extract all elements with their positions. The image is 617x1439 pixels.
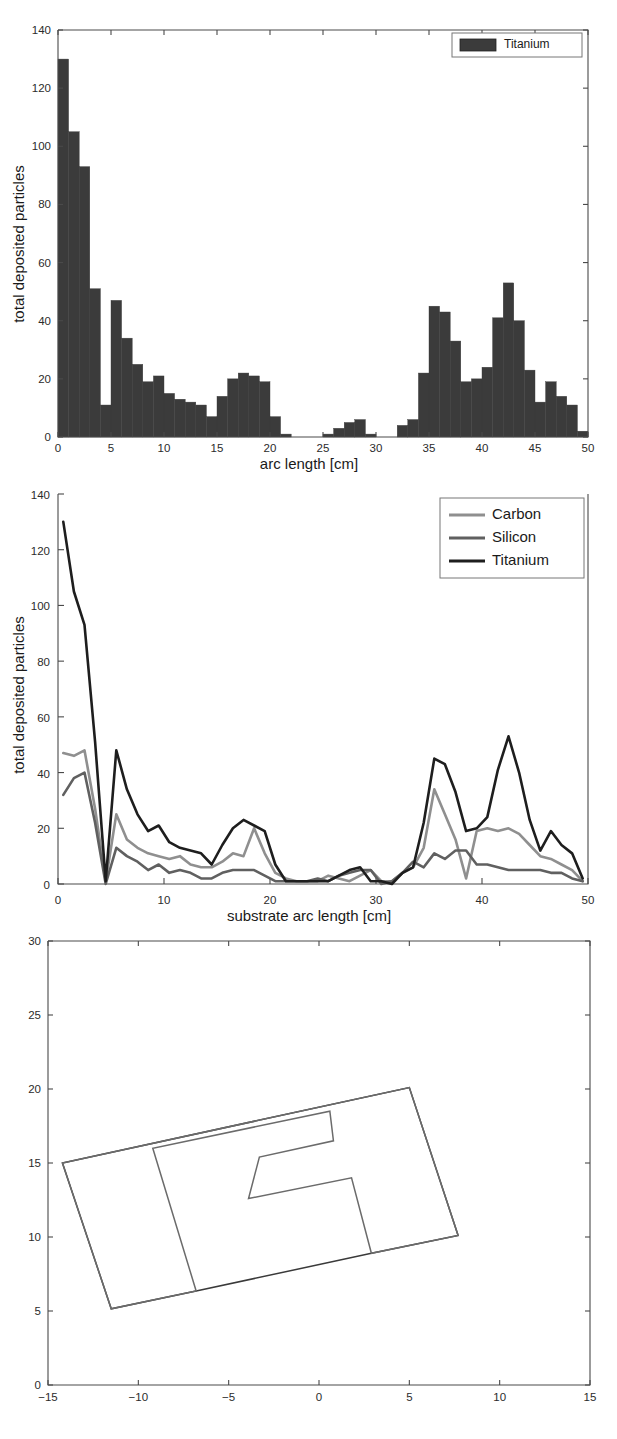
y-tick-label: 140 [31, 489, 50, 501]
histogram-bar [249, 376, 260, 437]
x-tick-label: 15 [584, 1391, 597, 1403]
line-chart-legend[interactable]: CarbonSiliconTitanium [440, 498, 584, 578]
histogram-bar [546, 382, 557, 437]
y-tick-label: 100 [31, 600, 50, 612]
histogram-bar [206, 417, 217, 437]
line-chart-y-axis-title: total deposited particles [10, 616, 27, 774]
x-tick-label: 10 [158, 894, 171, 906]
histogram-bar [196, 405, 207, 437]
x-tick-label: 5 [108, 442, 114, 454]
x-tick-label: −15 [38, 1391, 58, 1403]
legend-label-silicon: Silicon [492, 528, 536, 545]
x-tick-label: 10 [493, 1391, 506, 1403]
histogram-svg: 05101520253035404550020406080100120140 a… [0, 0, 617, 480]
legend-label-titanium: Titanium [492, 551, 549, 568]
y-tick-label: 0 [35, 1379, 41, 1391]
histogram-bar [355, 420, 366, 437]
panel-geometry: −15−10−5051015051015202530 [0, 925, 617, 1439]
histogram-bar [577, 431, 588, 437]
y-tick-label: 25 [28, 1009, 41, 1021]
x-tick-label: 20 [264, 442, 277, 454]
histogram-bar [503, 283, 514, 437]
x-tick-label: 0 [316, 1391, 322, 1403]
histogram-bar [58, 59, 69, 437]
histogram-legend[interactable]: Titanium [452, 33, 582, 57]
histogram-bar [69, 132, 80, 437]
x-tick-label: 0 [55, 442, 61, 454]
geometry-svg: −15−10−5051015051015202530 [0, 925, 617, 1439]
y-tick-label: 0 [44, 879, 50, 891]
y-tick-label: 100 [32, 140, 51, 152]
histogram-bar [238, 373, 249, 437]
y-tick-label: 20 [37, 823, 50, 835]
histogram-bar [100, 405, 111, 437]
histogram-bar [228, 379, 239, 437]
histogram-bar [185, 402, 196, 437]
y-tick-label: 60 [37, 712, 50, 724]
x-tick-label: 20 [264, 894, 277, 906]
x-tick-label: 35 [423, 442, 436, 454]
y-tick-label: 0 [45, 431, 51, 443]
panel-histogram: 05101520253035404550020406080100120140 a… [0, 0, 617, 480]
deposit-region-outline [62, 1088, 458, 1309]
geometry-tick-labels: −15−10−5051015051015202530 [28, 935, 596, 1403]
histogram-bar [143, 382, 154, 437]
y-tick-label: 5 [35, 1305, 41, 1317]
x-tick-label: 15 [211, 442, 224, 454]
y-tick-label: 80 [38, 198, 51, 210]
multi-panel-figure: 05101520253035404550020406080100120140 a… [0, 0, 617, 1439]
histogram-bar [111, 300, 122, 437]
histogram-bar [90, 289, 101, 437]
histogram-bar [514, 321, 525, 437]
histogram-bar [450, 341, 461, 437]
legend-label-titanium: Titanium [504, 37, 550, 51]
x-tick-label: 0 [55, 894, 61, 906]
histogram-bar [429, 306, 440, 437]
histogram-bar [408, 420, 419, 437]
histogram-bar [344, 422, 355, 437]
y-tick-label: 40 [37, 768, 50, 780]
x-tick-label: 45 [529, 442, 542, 454]
histogram-bar [556, 396, 567, 437]
y-tick-label: 30 [28, 935, 41, 947]
line-chart-x-axis-title: substrate arc length [cm] [227, 907, 391, 924]
histogram-bar [535, 402, 546, 437]
histogram-bar [471, 379, 482, 437]
histogram-bar [482, 367, 493, 437]
x-tick-label: 50 [582, 442, 595, 454]
x-tick-label: 50 [582, 894, 595, 906]
geometry-shapes [62, 1088, 458, 1309]
geometry-axes-frame [48, 941, 590, 1385]
x-tick-label: 5 [406, 1391, 412, 1403]
legend-label-carbon: Carbon [492, 505, 541, 522]
x-tick-label: 25 [317, 442, 330, 454]
y-tick-label: 15 [28, 1157, 41, 1169]
histogram-bars [58, 59, 588, 437]
histogram-bar [493, 318, 504, 437]
y-tick-label: 120 [31, 545, 50, 557]
y-tick-label: 80 [37, 656, 50, 668]
histogram-bar [418, 373, 429, 437]
histogram-bar [164, 393, 175, 437]
histogram-bar [132, 364, 143, 437]
y-tick-label: 20 [28, 1083, 41, 1095]
x-tick-label: −5 [222, 1391, 235, 1403]
y-tick-label: 140 [32, 24, 51, 36]
panel-line-chart: 01020304050020406080100120140 substrate … [0, 480, 617, 930]
histogram-bar [217, 396, 228, 437]
histogram-bar [79, 167, 90, 437]
y-tick-label: 10 [28, 1231, 41, 1243]
y-tick-label: 40 [38, 315, 51, 327]
x-tick-label: 40 [476, 894, 489, 906]
series-carbon [63, 750, 582, 881]
x-tick-label: 10 [158, 442, 171, 454]
line-chart-svg: 01020304050020406080100120140 substrate … [0, 480, 617, 930]
y-tick-label: 120 [32, 82, 51, 94]
histogram-x-axis-title: arc length [cm] [260, 455, 358, 472]
histogram-bar [524, 370, 535, 437]
histogram-bar [440, 312, 451, 437]
x-tick-label: −10 [129, 1391, 149, 1403]
x-tick-label: 30 [370, 894, 383, 906]
y-tick-label: 60 [38, 257, 51, 269]
histogram-bar [122, 338, 133, 437]
